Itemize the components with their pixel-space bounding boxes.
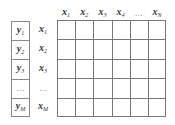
column-header: x4	[117, 7, 125, 20]
subscript: 3	[103, 12, 106, 18]
subscript: 3	[21, 68, 24, 74]
y-label: y2	[17, 43, 24, 56]
column-header: …	[135, 8, 143, 19]
subscript: 3	[44, 67, 47, 73]
grid-vertical-line	[75, 21, 76, 116]
subscript: 1	[21, 29, 24, 35]
y-box-divider	[12, 98, 29, 99]
ellipsis: …	[17, 84, 25, 93]
grid-horizontal-line	[58, 39, 165, 40]
y-box-divider	[12, 40, 29, 41]
matrix-grid	[57, 20, 166, 117]
grid-vertical-line	[148, 21, 149, 116]
row-label: x3	[39, 62, 47, 75]
subscript: 2	[44, 48, 47, 54]
subscript: 2	[21, 48, 24, 54]
row-label: …	[39, 82, 47, 93]
grid-horizontal-line	[58, 98, 165, 99]
subscript: 2	[85, 12, 88, 18]
y-label: …	[17, 83, 25, 94]
subscript: M	[20, 106, 25, 112]
grid-vertical-line	[130, 21, 131, 116]
column-header: x3	[98, 7, 106, 20]
subscript: M	[43, 106, 48, 112]
grid-horizontal-line	[58, 78, 165, 79]
subscript: 1	[44, 28, 47, 34]
y-box-divider	[12, 59, 29, 60]
subscript: 1	[67, 12, 70, 18]
grid-horizontal-line	[58, 59, 165, 60]
row-label: x2	[39, 43, 47, 56]
subscript: 4	[122, 12, 125, 18]
ellipsis: …	[39, 83, 47, 92]
y-label: y3	[17, 63, 24, 76]
column-header: xN	[152, 7, 161, 20]
y-label: y1	[17, 24, 24, 37]
y-box-divider	[12, 79, 29, 80]
column-header: x2	[80, 7, 88, 20]
row-label: xM	[38, 101, 48, 114]
row-label: x1	[39, 23, 47, 36]
column-header: x1	[62, 7, 70, 20]
grid-vertical-line	[112, 21, 113, 116]
grid-vertical-line	[93, 21, 94, 116]
ellipsis: …	[135, 9, 143, 18]
y-label: yM	[16, 101, 25, 114]
subscript: N	[157, 12, 161, 18]
